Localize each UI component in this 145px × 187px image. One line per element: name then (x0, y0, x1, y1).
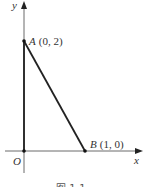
segment-ab (24, 41, 85, 151)
point-a-name: A (28, 35, 36, 47)
point-a-label: A(0, 2) (28, 35, 63, 48)
point-o (22, 149, 26, 153)
y-axis-arrow-icon (21, 1, 27, 9)
point-b-label: B(1, 0) (90, 138, 124, 151)
x-axis-label: x (133, 154, 139, 166)
origin-label: O (13, 155, 21, 167)
coordinate-diagram: y x O A(0, 2) B(1, 0) 图 1-1 (0, 0, 145, 187)
figure-caption: 图 1-1 (56, 183, 86, 187)
point-b-coords: (1, 0) (100, 138, 124, 151)
point-a (22, 39, 26, 43)
point-b-name: B (90, 138, 97, 150)
point-a-coords: (0, 2) (39, 35, 63, 48)
y-axis-label: y (11, 0, 17, 11)
point-b (83, 149, 87, 153)
